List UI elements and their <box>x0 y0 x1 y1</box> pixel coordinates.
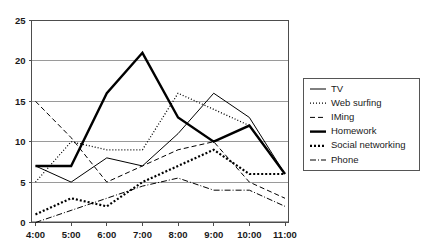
legend-label: Social networking <box>331 139 405 150</box>
x-axis-tick-label: 9:00 <box>204 229 223 240</box>
line-chart: 0510152025 4:005:006:007:008:009:0010:00… <box>0 0 424 249</box>
y-axis-tick-label: 5 <box>20 177 26 188</box>
x-axis-tick-label: 6:00 <box>97 229 116 240</box>
y-axis-tick-label: 20 <box>15 55 26 66</box>
x-axis-tick-label: 11:00 <box>273 229 297 240</box>
legend-label: Phone <box>331 154 358 165</box>
y-axis-tick-label: 0 <box>20 217 25 228</box>
chart-canvas: 0510152025 4:005:006:007:008:009:0010:00… <box>0 0 424 249</box>
y-axis-tick-label: 10 <box>15 136 26 147</box>
x-axis-tick-label: 7:00 <box>133 229 152 240</box>
x-axis-tick-label: 4:00 <box>26 229 45 240</box>
x-axis-tick-label: 8:00 <box>169 229 188 240</box>
y-axis-tick-label: 25 <box>15 15 26 26</box>
y-axis-tick-label: 15 <box>15 96 26 107</box>
chart-legend: TVWeb surfingIMingHomeworkSocial network… <box>304 79 420 171</box>
legend-label: TV <box>331 83 344 94</box>
legend-label: IMing <box>331 111 354 122</box>
legend-label: Homework <box>331 125 377 136</box>
x-axis-tick-label: 10:00 <box>237 229 261 240</box>
x-axis-tick-label: 5:00 <box>62 229 81 240</box>
legend-label: Web surfing <box>331 97 382 108</box>
